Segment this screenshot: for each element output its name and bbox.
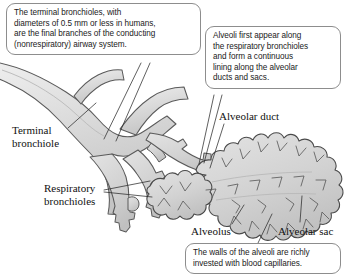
terminal-bronchiole-callout: The terminal bronchioles, with diameters… [6,3,201,55]
label-terminal-bronchiole: Terminal bronchiole [12,124,59,149]
alveoli-callout: Alveoli first appear along the respirato… [205,26,341,89]
detached-alveolus-shape [128,197,139,211]
capillaries-callout: The walls of the alveoli are richly inve… [185,243,341,274]
label-respiratory-bronchioles: Respiratory bronchioles [44,182,95,207]
label-alveolar-sac: Alveolar sac [278,225,333,238]
upper-left-stub-shape [74,70,124,104]
label-alveolus: Alveolus [191,225,231,238]
label-alveolar-duct: Alveolar duct [219,110,279,123]
anatomy-figure: The terminal bronchioles, with diameters… [0,0,348,279]
